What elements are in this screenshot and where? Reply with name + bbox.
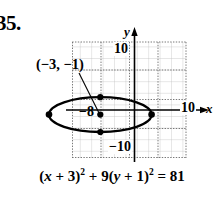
equation-result: = 81	[154, 168, 185, 184]
y-axis-tick-label-bottom: −10	[108, 140, 132, 154]
x-intercept-left-label: −8	[79, 105, 94, 119]
point-co-vertex-bottom	[97, 129, 103, 135]
y-axis-letter: y	[124, 25, 130, 38]
point-center	[97, 112, 103, 118]
exercise-figure: 35.	[0, 0, 224, 205]
point-vertex-left	[46, 111, 53, 118]
center-coordinate-label: (−3, −1)	[36, 57, 84, 72]
y-axis-tick-label-top: 10	[113, 42, 129, 56]
equation-caption: (x + 3)2 + 9(y + 1)2 = 81	[0, 168, 224, 185]
point-vertex-right	[148, 111, 155, 118]
equation-variable-x: x	[44, 168, 52, 184]
equation-term-1: + 3)	[52, 168, 81, 184]
x-axis-tick-label-right: 10	[180, 101, 196, 115]
point-co-vertex-top	[97, 94, 103, 100]
equation-term-3: + 1)	[120, 168, 149, 184]
coordinate-graph: (−3, −1) −8 10 −10 10 y x	[0, 0, 224, 165]
equation-term-2: + 9(	[85, 168, 114, 184]
x-axis-letter: x	[206, 102, 213, 115]
